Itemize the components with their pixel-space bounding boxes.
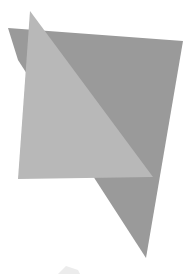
shapes-svg [0, 0, 195, 274]
abstract-shapes-canvas [0, 0, 195, 274]
faint-smudge [58, 266, 80, 274]
